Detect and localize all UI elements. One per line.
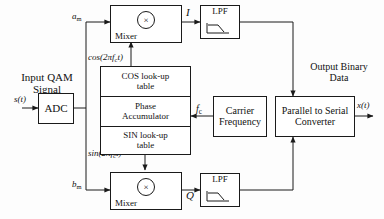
lpf-bottom-block[interactable]: LPF [200,173,240,207]
mixer-bottom-block[interactable]: × Mixer [110,172,182,210]
output-caption: Output Binary Data [297,62,381,84]
a-branch-label: am [72,12,82,22]
mixer-top-block[interactable]: × Mixer [110,5,182,43]
cos-lookup-table-block[interactable]: COS look-up table [101,67,190,96]
lpf-top-block[interactable]: LPF [200,5,240,39]
b-branch-label: bm [72,180,82,190]
cos-carrier-label: cos(2πfct) [88,53,123,63]
output-signal-label: x(t) [357,101,370,111]
multiply-icon-top: × [137,11,155,29]
lpf-top-label: LPF [201,7,239,16]
output-caption-line2: Data [330,72,349,83]
adc-block[interactable]: ADC [38,93,74,124]
multiply-icon-bottom: × [137,178,155,196]
sin-lookup-table-block[interactable]: SIN look-up table [101,126,190,154]
dds-stack: COS look-up table Phase Accumulator SIN … [100,66,191,155]
parallel-to-serial-block[interactable]: Parallel to Serial Converter [275,96,355,137]
lowpass-response-icon-bottom [205,190,231,203]
i-branch-label: I [186,7,190,19]
lpf-bottom-label: LPF [201,175,239,184]
q-branch-label: Q [186,190,194,202]
fc-label: fc [196,104,202,117]
qam-demodulator-diagram: Input QAM Signal s(t) ADC am bm × Mixer … [0,0,384,219]
output-caption-line1: Output Binary [310,61,368,72]
input-caption-line1: Input QAM [21,71,73,83]
mixer-top-label: Mixer [115,32,137,41]
phase-accumulator-block[interactable]: Phase Accumulator [101,96,190,126]
adc-label: ADC [44,103,67,115]
mixer-bottom-label: Mixer [115,199,137,208]
lowpass-response-icon-top [205,22,231,35]
input-signal-label: s(t) [14,95,26,105]
carrier-frequency-block[interactable]: Carrier Frequency [213,96,267,137]
